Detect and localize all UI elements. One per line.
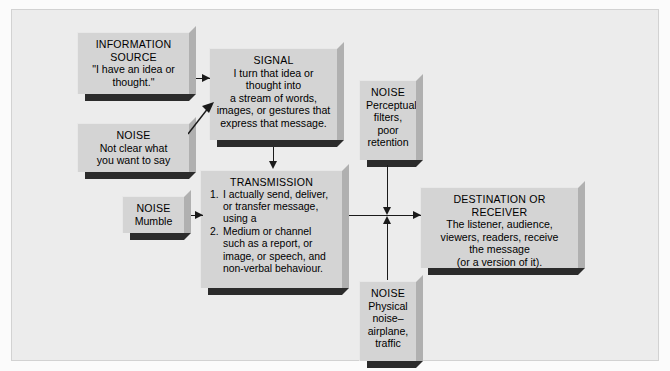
information-source-body-line2: thought." xyxy=(84,76,183,89)
diagram-frame: INFORMATION SOURCE "I have an idea or th… xyxy=(11,9,659,361)
node-information-source[interactable]: INFORMATION SOURCE "I have an idea or th… xyxy=(77,32,189,94)
destination-body-line2: viewers, readers, receive xyxy=(427,231,572,244)
node-transmission[interactable]: TRANSMISSION 1. I actually send, deliver… xyxy=(200,170,342,288)
signal-body-line2: thought into xyxy=(216,79,331,92)
node-noise-mumble[interactable]: NOISE Mumble xyxy=(122,196,184,233)
connector-noise-mumble-to-transmission-arrowhead xyxy=(195,211,203,219)
transmission-title: TRANSMISSION xyxy=(206,176,337,189)
noise-perceptual-title: NOISE xyxy=(366,86,410,99)
diagram-canvas: INFORMATION SOURCE "I have an idea or th… xyxy=(0,0,670,371)
node-noise-unclear[interactable]: NOISE Not clear what you want to say xyxy=(77,123,189,172)
noise-physical-body-line2: noise– xyxy=(366,312,410,325)
information-source-title-line2: SOURCE xyxy=(84,51,183,64)
noise-physical-body-line1: Physical xyxy=(366,300,410,313)
transmission-list-item: 1. I actually send, deliver, or transfer… xyxy=(210,189,335,226)
node-noise-perceptual[interactable]: NOISE Perceptual filters, poor retention xyxy=(359,80,416,160)
connector-signal-to-transmission-arrowhead xyxy=(269,161,277,169)
transmission-item-text: I actually send, deliver, or transfer me… xyxy=(223,189,328,225)
noise-unclear-title: NOISE xyxy=(84,129,183,142)
noise-physical-body-line3: airplane, xyxy=(366,325,410,338)
signal-body-line3: a stream of words, xyxy=(216,92,331,105)
noise-perceptual-body-line1: Perceptual xyxy=(366,99,410,112)
destination-body-line1: The listener, audience, xyxy=(427,218,572,231)
connector-noise-perceptual-arrowhead xyxy=(383,207,391,215)
signal-body-line4: images, or gestures that xyxy=(216,104,331,117)
transmission-list: 1. I actually send, deliver, or transfer… xyxy=(206,189,337,276)
information-source-body-line1: "I have an idea or xyxy=(84,63,183,76)
connector-noise-physical-arrowhead xyxy=(383,216,391,224)
signal-body-line5: express that message. xyxy=(216,117,331,130)
noise-unclear-body-line2: you want to say xyxy=(84,154,183,167)
connector-transmission-to-destination-arrowhead xyxy=(413,211,421,219)
noise-physical-body-line4: traffic xyxy=(366,337,410,350)
destination-body-line4: (or a version of it). xyxy=(427,256,572,269)
signal-body-line1: I turn that idea or xyxy=(216,67,331,80)
destination-body-line3: the message xyxy=(427,243,572,256)
node-destination-receiver[interactable]: DESTINATION OR RECEIVER The listener, au… xyxy=(420,187,578,268)
noise-unclear-body-line1: Not clear what xyxy=(84,142,183,155)
connector-source-to-signal-arrowhead xyxy=(202,74,210,82)
node-signal[interactable]: SIGNAL I turn that idea or thought into … xyxy=(209,48,337,140)
connector-noise-unclear-to-signal xyxy=(188,102,216,136)
transmission-list-item: 2. Medium or channel such as a report, o… xyxy=(210,226,335,276)
noise-mumble-title: NOISE xyxy=(129,202,178,215)
destination-title: DESTINATION OR RECEIVER xyxy=(427,193,572,218)
signal-title: SIGNAL xyxy=(216,54,331,67)
noise-perceptual-body-line4: retention xyxy=(366,136,410,149)
noise-perceptual-body-line3: poor xyxy=(366,124,410,137)
transmission-item-number: 1. xyxy=(210,189,219,201)
node-noise-physical[interactable]: NOISE Physical noise– airplane, traffic xyxy=(359,281,416,361)
connector-noise-physical-line xyxy=(387,218,388,280)
transmission-item-number: 2. xyxy=(210,226,219,238)
connector-noise-perceptual-line xyxy=(387,165,388,213)
noise-perceptual-body-line2: filters, xyxy=(366,111,410,124)
noise-mumble-body-line1: Mumble xyxy=(129,215,178,228)
transmission-item-text: Medium or channel such as a report, or i… xyxy=(223,226,326,274)
information-source-title-line1: INFORMATION xyxy=(84,38,183,51)
noise-physical-title: NOISE xyxy=(366,287,410,300)
